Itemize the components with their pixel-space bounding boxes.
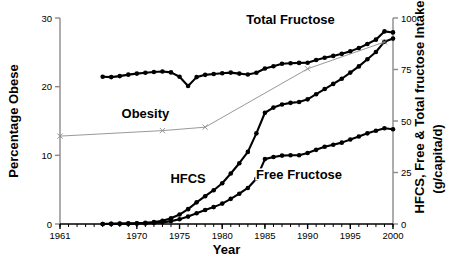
- data-point-marker: [314, 148, 319, 153]
- data-point-marker: [186, 207, 191, 212]
- data-point-marker: [288, 61, 293, 66]
- data-point-marker: [160, 69, 165, 74]
- data-point-marker: [348, 70, 353, 75]
- y-tick-label-right: 0: [401, 219, 406, 230]
- data-point-marker: [305, 60, 310, 65]
- y-tick-label-left: 10: [41, 150, 52, 161]
- data-point-marker: [365, 57, 370, 62]
- y-tick-label-left: 30: [41, 13, 52, 24]
- data-point-marker: [220, 181, 225, 186]
- data-point-marker: [203, 194, 208, 199]
- data-point-marker: [254, 131, 259, 136]
- x-tick-label: 1970: [126, 230, 147, 241]
- data-point-marker: [374, 50, 379, 55]
- data-point-marker: [135, 71, 140, 76]
- data-point-marker: [228, 171, 233, 176]
- data-point-marker: [126, 72, 131, 77]
- data-point-marker: [169, 70, 174, 75]
- data-point-marker: [228, 70, 233, 75]
- data-point-marker: [186, 214, 191, 219]
- data-point-marker: [391, 36, 396, 41]
- data-point-marker: [280, 153, 285, 158]
- series-label-obesity: Obesity: [122, 106, 170, 121]
- x-tick-label: 1995: [340, 230, 361, 241]
- data-point-marker: [263, 66, 268, 71]
- data-point-marker: [280, 61, 285, 66]
- data-point-marker: [263, 110, 268, 115]
- data-point-marker: [348, 137, 353, 142]
- data-point-marker: [246, 150, 251, 155]
- data-point-marker: [322, 144, 327, 149]
- data-point-marker: [382, 29, 387, 34]
- x-tick-label: 2000: [382, 230, 403, 241]
- data-point-marker: [357, 64, 362, 69]
- data-point-marker: [314, 58, 319, 63]
- data-point-marker: [322, 87, 327, 92]
- x-tick-label: 1975: [169, 230, 190, 241]
- data-point-marker: [177, 74, 182, 79]
- data-point-marker: [143, 221, 148, 226]
- data-point-marker: [152, 221, 157, 226]
- data-point-marker: [211, 205, 216, 210]
- data-point-marker: [339, 52, 344, 57]
- data-point-marker: [391, 127, 396, 132]
- data-point-marker: [331, 142, 336, 147]
- x-tick-label: 1990: [297, 230, 318, 241]
- data-point-marker: [203, 73, 208, 78]
- x-tick-label: 1980: [212, 230, 233, 241]
- data-point-marker: [228, 197, 233, 202]
- data-point-marker: [220, 71, 225, 76]
- data-point-marker: [391, 30, 396, 35]
- data-point-marker: [382, 126, 387, 131]
- data-point-marker: [288, 101, 293, 106]
- x-tick-label: 1985: [254, 230, 275, 241]
- data-point-marker: [186, 84, 191, 89]
- data-point-marker: [237, 71, 242, 76]
- y-axis-title-right: HFCS, Free & Total fructose Intake: [412, 1, 427, 214]
- series-label-hfcs: HFCS: [170, 171, 206, 186]
- y-axis-title-right-units: (g/capita/d): [430, 124, 445, 193]
- x-axis-title: Year: [213, 242, 240, 257]
- series-line: [103, 31, 393, 86]
- series-label-total-fructose: Total Fructose: [246, 12, 335, 27]
- fructose-obesity-chart: 0102030025507510019611970197519801985199…: [0, 0, 463, 260]
- data-point-marker: [143, 71, 148, 76]
- data-point-marker: [194, 211, 199, 216]
- data-point-marker: [135, 221, 140, 226]
- data-point-marker: [374, 128, 379, 133]
- data-point-marker: [126, 221, 131, 226]
- data-point-marker: [331, 54, 336, 59]
- data-point-marker: [297, 153, 302, 158]
- data-point-marker: [237, 191, 242, 196]
- data-point-marker: [246, 72, 251, 77]
- y-tick-label-right: 75: [401, 64, 412, 75]
- data-point-marker: [117, 74, 122, 79]
- data-point-marker: [365, 42, 370, 47]
- data-point-marker: [322, 55, 327, 60]
- data-point-marker: [246, 186, 251, 191]
- data-point-marker: [314, 92, 319, 97]
- data-point-marker: [109, 222, 114, 227]
- data-point-marker: [339, 140, 344, 145]
- y-axis-title-left: Percentage Obese: [6, 64, 21, 177]
- data-point-marker: [357, 134, 362, 139]
- data-point-marker: [169, 219, 174, 224]
- data-point-marker: [331, 82, 336, 87]
- x-tick-label: 1961: [49, 230, 70, 241]
- data-point-marker: [297, 61, 302, 66]
- chart-canvas: 0102030025507510019611970197519801985199…: [0, 0, 463, 260]
- data-point-marker: [177, 217, 182, 222]
- series-total-fructose: [100, 29, 395, 88]
- data-point-marker: [100, 74, 105, 79]
- y-tick-label-left: 20: [41, 81, 52, 92]
- data-point-marker: [203, 208, 208, 213]
- data-point-marker: [280, 102, 285, 107]
- series-label-free-fructose: Free Fructose: [256, 167, 342, 182]
- data-point-marker: [194, 75, 199, 80]
- data-point-marker: [297, 100, 302, 105]
- data-point-marker: [211, 188, 216, 193]
- data-point-marker: [152, 70, 157, 75]
- y-tick-label-right: 50: [401, 116, 412, 127]
- data-point-marker: [109, 75, 114, 80]
- data-point-marker: [237, 161, 242, 166]
